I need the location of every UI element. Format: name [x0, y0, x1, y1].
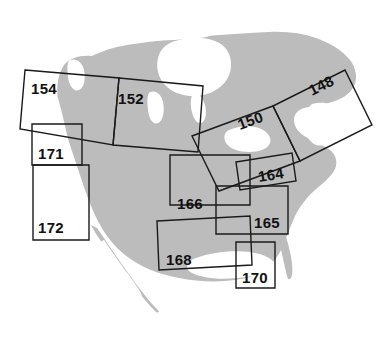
sheet-170-label: 170 [242, 269, 268, 286]
sheet-168-label: 168 [166, 251, 192, 268]
sheet-171-label: 171 [38, 145, 64, 162]
sheet-166-label: 166 [177, 195, 203, 212]
sheet-154-label: 154 [31, 80, 57, 97]
map-canvas: 154 152 148 150 171 [0, 0, 390, 342]
sheet-165-label: 165 [254, 214, 280, 231]
map-sheet-index-figure: 154 152 148 150 171 [0, 0, 390, 342]
sheet-152-label: 152 [118, 90, 144, 107]
sheet-172-label: 172 [38, 219, 64, 236]
